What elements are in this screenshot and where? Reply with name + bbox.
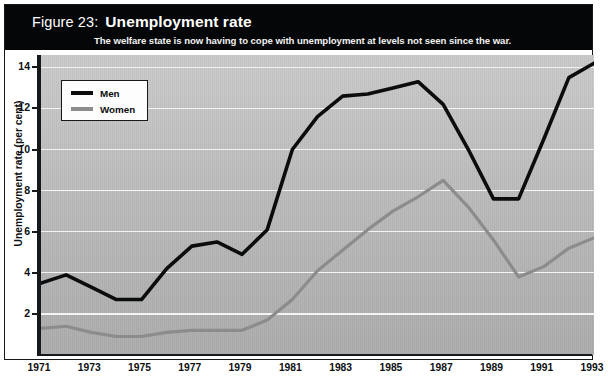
x-axis-tick-label: 1991: [520, 362, 564, 373]
y-axis-tick: [32, 149, 37, 151]
legend-item-men: Men: [71, 87, 120, 99]
figure-title: Unemployment rate: [105, 13, 251, 30]
x-axis-tick-label: 1989: [469, 362, 513, 373]
legend-item-women: Women: [71, 103, 135, 115]
legend-label-women: Women: [100, 104, 135, 115]
y-axis-tick: [32, 272, 37, 274]
y-axis-tick: [32, 313, 37, 315]
x-axis-tick-label: 1975: [118, 362, 162, 373]
y-axis-tick: [32, 231, 37, 233]
title-banner: Figure 23:Unemployment rate The welfare …: [5, 5, 592, 50]
x-axis-tick-label: 1971: [17, 362, 61, 373]
y-axis-line: [37, 55, 39, 355]
legend-swatch-men-icon: [71, 91, 93, 95]
x-axis-line: [37, 354, 592, 356]
legend-label-men: Men: [100, 88, 120, 99]
y-axis-tick: [32, 190, 37, 192]
x-axis-tick-label: 1983: [319, 362, 363, 373]
x-axis-tick-label: 1985: [369, 362, 413, 373]
x-axis-tick-label: 1987: [419, 362, 463, 373]
y-axis-title: Unemployment rate (per cent): [13, 64, 24, 284]
series-line-women: [41, 180, 594, 336]
x-axis-tick-label: 1973: [67, 362, 111, 373]
x-axis-tick-label: 1977: [168, 362, 212, 373]
y-axis-tick-label: 2: [8, 307, 30, 319]
legend-box: Men Women: [61, 80, 148, 121]
y-axis-tick: [32, 66, 37, 68]
banner-title-line: Figure 23:Unemployment rate: [32, 13, 252, 31]
x-axis-tick-label: 1979: [218, 362, 262, 373]
figure-number-label: Figure 23:: [32, 14, 98, 30]
legend-swatch-women-icon: [71, 107, 93, 110]
x-axis-tick-label: 1993: [570, 362, 608, 373]
y-axis-tick: [32, 107, 37, 109]
figure-subtitle: The welfare state is now having to cope …: [94, 35, 511, 46]
x-axis-tick-label: 1981: [268, 362, 312, 373]
